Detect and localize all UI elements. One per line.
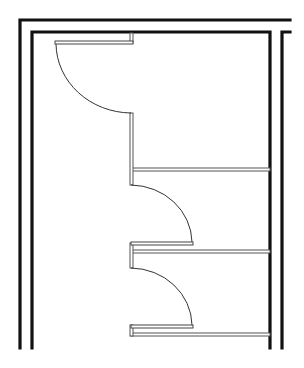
door-2 [131, 185, 193, 245]
door-3 [131, 268, 193, 328]
door-swing-arc [131, 185, 192, 242]
door-leaf [55, 41, 133, 44]
door-leaf [131, 242, 193, 245]
door-swing-arc [56, 44, 131, 113]
doors-group [55, 41, 193, 328]
outer-wall-right [282, 32, 290, 348]
stall-partition-3 [131, 333, 270, 336]
stall-partition-1 [131, 168, 270, 171]
partitions-group [130, 33, 270, 336]
floor-plan-canvas [0, 0, 304, 368]
door-leaf [131, 325, 193, 328]
door-swing-arc [131, 268, 192, 325]
inner-wall [32, 32, 270, 348]
outer-wall-top [20, 20, 290, 348]
door-1 [55, 41, 133, 113]
stall-partition-2 [131, 250, 270, 253]
pilaster-2 [130, 113, 133, 185]
pilaster-3 [130, 243, 133, 268]
walls-group [20, 20, 290, 348]
